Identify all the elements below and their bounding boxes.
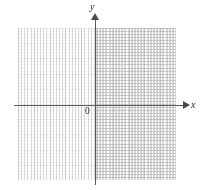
grid-background [18, 28, 176, 180]
y-axis-arrow-icon [91, 13, 99, 20]
x-axis-label: x [191, 100, 195, 110]
y-axis-line [95, 18, 96, 185]
x-axis-arrow-icon [183, 101, 190, 109]
y-axis-label: y [90, 2, 94, 12]
coordinate-plane-figure: y x 0 [0, 0, 201, 190]
x-axis-line [14, 105, 186, 106]
origin-label: 0 [85, 107, 90, 117]
